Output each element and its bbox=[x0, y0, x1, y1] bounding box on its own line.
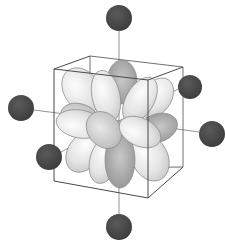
diagram-canvas bbox=[0, 0, 225, 240]
ligand-lower-left bbox=[36, 144, 62, 170]
ligand-bottom bbox=[106, 214, 132, 240]
d-orbital-lobes bbox=[53, 60, 181, 188]
octahedral-orbital-diagram: Octahedral ligand field: six ligands alo… bbox=[0, 0, 225, 240]
ligand-upper-right bbox=[178, 75, 202, 99]
ligand-right bbox=[199, 121, 225, 147]
ligand-top bbox=[106, 5, 132, 31]
cube-edge-top-right bbox=[148, 67, 183, 80]
cube-edge-top-left bbox=[54, 56, 90, 69]
ligand-left bbox=[8, 95, 34, 121]
